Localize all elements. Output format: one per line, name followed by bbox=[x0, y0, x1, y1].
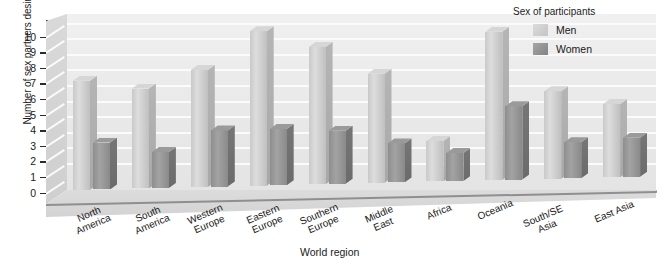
x-axis-title: World region bbox=[300, 246, 359, 258]
bar-men bbox=[191, 70, 208, 187]
side-gridline bbox=[45, 134, 64, 148]
bar-face bbox=[505, 106, 522, 179]
plot-side-wall bbox=[46, 14, 67, 204]
bar-side bbox=[169, 147, 176, 188]
bar-women bbox=[93, 143, 110, 190]
bar-side bbox=[228, 125, 235, 186]
bar-men bbox=[73, 81, 90, 190]
side-gridline bbox=[45, 71, 64, 85]
bar-face bbox=[329, 131, 346, 184]
bar-men bbox=[368, 74, 385, 183]
legend-swatch-women bbox=[533, 43, 548, 55]
bar-women bbox=[505, 106, 522, 179]
bar-women bbox=[329, 131, 346, 184]
bar-face bbox=[426, 141, 443, 182]
bar-men bbox=[485, 32, 502, 180]
bar-men bbox=[544, 91, 561, 178]
side-gridline bbox=[45, 40, 64, 54]
y-axis-tick-label: 6 bbox=[14, 94, 36, 104]
legend-item-women[interactable]: Women bbox=[513, 41, 663, 56]
bar-women bbox=[211, 130, 228, 186]
y-axis-tick-label: 9 bbox=[14, 47, 36, 57]
side-gridline bbox=[45, 56, 64, 70]
side-gridline bbox=[45, 25, 64, 39]
y-axis-tick-label: 5 bbox=[14, 110, 36, 120]
gridline bbox=[66, 69, 656, 71]
side-gridline bbox=[45, 118, 64, 132]
legend: Sex of participants Men Women bbox=[513, 6, 663, 60]
bar-face bbox=[93, 143, 110, 190]
bar-face bbox=[603, 104, 620, 177]
bar-face bbox=[191, 70, 208, 187]
bar-face bbox=[564, 142, 581, 178]
bar-face bbox=[388, 143, 405, 182]
side-gridline bbox=[45, 103, 64, 117]
side-gridline bbox=[45, 87, 64, 101]
legend-label-men: Men bbox=[556, 24, 576, 36]
bar-face bbox=[623, 138, 640, 177]
bar-women bbox=[446, 153, 463, 181]
bar-women bbox=[388, 143, 405, 182]
bar-men bbox=[132, 89, 149, 189]
bar-side bbox=[110, 138, 117, 190]
bar-men bbox=[603, 104, 620, 177]
legend-label-women: Women bbox=[556, 43, 592, 55]
bar-face bbox=[368, 74, 385, 183]
bar-face bbox=[250, 31, 267, 185]
bar-women bbox=[564, 142, 581, 178]
bar-side bbox=[522, 101, 529, 179]
y-axis-tick-label: 8 bbox=[14, 63, 36, 73]
side-gridline bbox=[45, 165, 64, 179]
bar-face bbox=[544, 91, 561, 178]
bar-women bbox=[623, 138, 640, 177]
y-axis-tick-label: 10 bbox=[14, 32, 36, 42]
chart-figure: Number of sex partners desired 109876543… bbox=[0, 0, 667, 267]
bar-face bbox=[270, 129, 287, 185]
bar-face bbox=[485, 32, 502, 180]
y-axis-tick-label: 1 bbox=[14, 172, 36, 182]
side-gridline bbox=[45, 181, 64, 195]
bar-face bbox=[152, 152, 169, 188]
bar-face bbox=[446, 153, 463, 181]
y-axis-tick-label: 0 bbox=[14, 188, 36, 198]
bar-side bbox=[405, 138, 412, 182]
legend-swatch-men bbox=[533, 24, 548, 36]
legend-item-men[interactable]: Men bbox=[513, 22, 663, 37]
bar-side bbox=[581, 137, 588, 178]
y-axis-tick-label: 2 bbox=[14, 156, 36, 166]
bar-men bbox=[309, 47, 326, 184]
legend-title: Sex of participants bbox=[513, 6, 663, 17]
bar-face bbox=[309, 47, 326, 184]
bar-side bbox=[346, 126, 353, 184]
side-gridline bbox=[45, 149, 64, 163]
bar-men bbox=[426, 141, 443, 182]
bar-face bbox=[73, 81, 90, 190]
y-axis-tick-label: 4 bbox=[14, 125, 36, 135]
bar-side bbox=[640, 133, 647, 177]
y-axis-tick-label: 7 bbox=[14, 78, 36, 88]
bar-face bbox=[211, 130, 228, 186]
bar-side bbox=[463, 148, 470, 181]
bar-men bbox=[250, 31, 267, 185]
bar-women bbox=[270, 129, 287, 185]
y-axis-tick-label: 3 bbox=[14, 141, 36, 151]
bar-side bbox=[287, 124, 294, 185]
bar-women bbox=[152, 152, 169, 188]
bar-face bbox=[132, 89, 149, 189]
